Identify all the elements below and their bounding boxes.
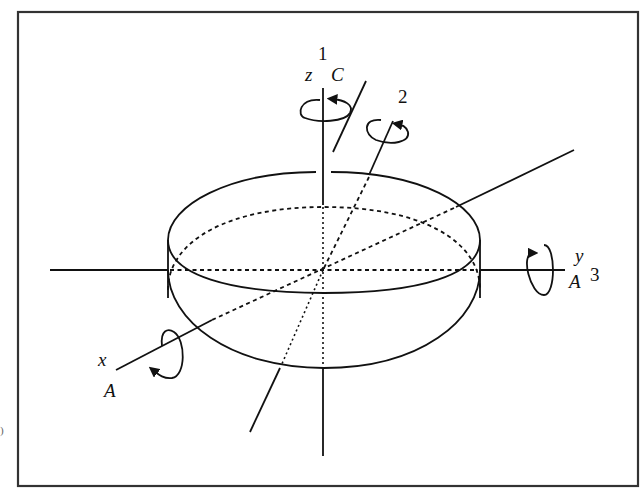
axis-c-slash [333, 81, 366, 152]
cylinder-top-ellipse [168, 172, 480, 293]
axis-z [300, 88, 351, 456]
figure-frame [18, 12, 638, 486]
label-x: x [97, 349, 107, 370]
label-z: z [304, 64, 313, 85]
label-axis-2: 2 [398, 86, 408, 107]
label-y: y [573, 245, 584, 266]
axis-y [50, 245, 565, 295]
rotation-arrow-z-icon [300, 99, 351, 121]
disk-axes-diagram: 1 z C 2 y A 3 x A [0, 0, 642, 491]
label-axis-1: 1 [318, 43, 328, 64]
label-axis-3: 3 [590, 264, 600, 285]
cylinder-bottom-ellipse-back [168, 207, 480, 290]
axis-x [116, 150, 574, 378]
label-y-moment-A: A [567, 271, 581, 292]
label-x-moment-A: A [102, 380, 116, 401]
axis-2 [250, 120, 408, 432]
label-C: C [331, 64, 344, 85]
rotation-arrow-x-icon [153, 330, 183, 378]
